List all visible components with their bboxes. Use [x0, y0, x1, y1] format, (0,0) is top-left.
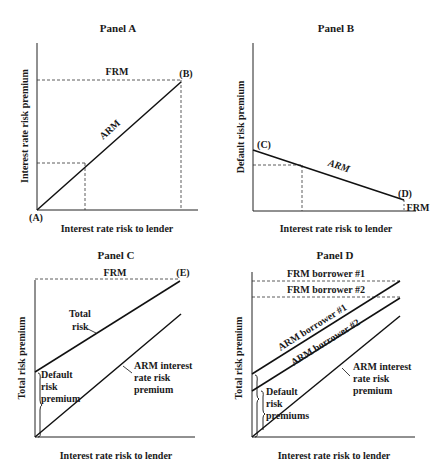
panel-b-arm-label: ARM — [326, 157, 353, 175]
panel-a-title: Panel A — [100, 22, 136, 34]
panel-d-frm2-label: FRM borrower #2 — [287, 284, 365, 295]
panel-c-ylabel: Total risk premium — [16, 316, 27, 399]
panel-d-default-label-1: Default — [266, 386, 298, 397]
panel-d-arm-interest-label-3: premium — [353, 385, 393, 396]
panel-a-ylabel: Interest rate risk premium — [19, 68, 30, 182]
panel-c-title: Panel C — [98, 249, 135, 261]
panel-b: Panel B (C) ARM (D) FRM Interest rate ri… — [235, 22, 430, 234]
panel-a-point-b: (B) — [179, 68, 192, 80]
panel-b-ylabel: Default risk premium — [235, 80, 246, 173]
panel-d-default-label-2: risk — [266, 398, 283, 409]
panel-c-arm-arrow — [123, 366, 132, 373]
panel-c-frm-label: FRM — [104, 267, 127, 278]
panel-b-arm-line — [253, 150, 404, 200]
panel-d-xlabel: Interest rate risk to lender — [278, 450, 391, 461]
panel-c-arm-label-2: rate risk — [134, 372, 171, 383]
panel-d-frm1-label: FRM borrower #1 — [287, 268, 365, 279]
panel-b-title: Panel B — [318, 22, 355, 34]
panel-b-xlabel: Interest rate risk to lender — [280, 223, 393, 234]
panel-b-frm-label: FRM — [407, 202, 430, 213]
panel-d-default-brace-2 — [261, 391, 265, 430]
panel-d-title: Panel D — [317, 249, 354, 261]
panel-d-default-brace-1 — [255, 375, 259, 437]
panel-c-arm-label-1: ARM interest — [134, 360, 193, 371]
panel-c-total-risk-label-2: risk — [72, 321, 89, 332]
panel-c-total-risk-arrow — [88, 329, 96, 333]
panel-a-arm-line — [37, 82, 181, 210]
panel-b-point-d: (D) — [398, 188, 412, 200]
panel-a: Panel A FRM ARM (A) (B) Interest rate ri… — [19, 22, 198, 234]
panel-c-default-label-2: risk — [41, 381, 58, 392]
panel-c-arm-label-3: premium — [134, 384, 174, 395]
panel-c-default-label-3: premium — [41, 393, 81, 404]
panel-d-arm-interest-label-2: rate risk — [353, 373, 390, 384]
panel-c-default-label-1: Default — [41, 369, 73, 380]
panel-c-total-risk-label-1: Total — [69, 308, 91, 319]
panel-a-point-a: (A) — [29, 212, 43, 224]
panel-c-xlabel: Interest rate risk to lender — [60, 450, 173, 461]
panel-c-point-e: (E) — [176, 267, 189, 279]
panel-d-arm-interest-label-1: ARM interest — [353, 361, 412, 372]
panel-a-xlabel: Interest rate risk to lender — [61, 223, 174, 234]
panel-b-point-c: (C) — [257, 139, 271, 151]
panel-d-ylabel: Total risk premium — [233, 316, 244, 399]
panel-a-frm-label: FRM — [106, 66, 129, 77]
panel-d: Panel D FRM borrower #1 FRM borrower #2 … — [233, 249, 415, 461]
panel-d-default-label-3: premiums — [266, 410, 309, 421]
panel-c: Panel C FRM (E) Total risk Default risk … — [16, 249, 195, 461]
panel-c-total-risk-line — [35, 281, 180, 372]
panel-d-arm-interest-arrow — [342, 368, 350, 376]
risk-premium-diagram: Panel A FRM ARM (A) (B) Interest rate ri… — [0, 0, 442, 474]
